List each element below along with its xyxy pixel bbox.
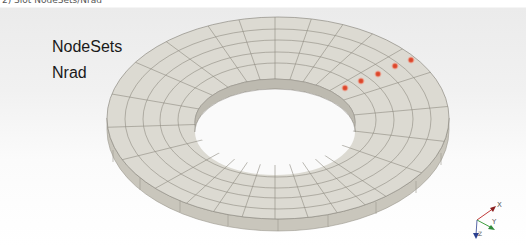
svg-text:X: X [497, 201, 502, 209]
nrad-label: Nrad [52, 64, 87, 82]
ring-mesh[interactable]: X Y Z [0, 0, 526, 246]
svg-text:Y: Y [491, 218, 497, 226]
axis-triad-icon: X Y Z [473, 201, 502, 239]
nodesets-label: NodeSets [52, 38, 122, 56]
hole [195, 89, 355, 175]
3d-viewport[interactable]: 2) Slot NodeSets/Nrad [0, 0, 526, 246]
svg-text:Z: Z [478, 230, 482, 237]
